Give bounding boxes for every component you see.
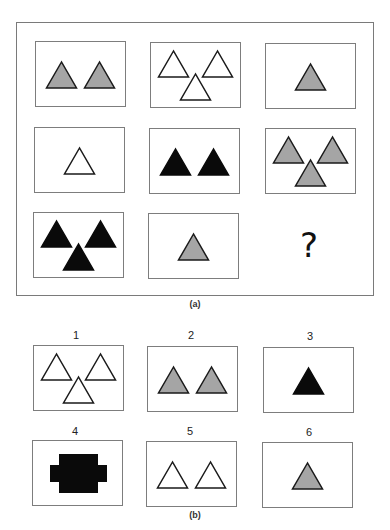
- option-2[interactable]: [147, 346, 238, 412]
- matrix-cell-1-2: [150, 42, 241, 108]
- option-6[interactable]: [262, 442, 353, 508]
- white-triangle-icon: [158, 462, 188, 488]
- white-triangle-icon: [203, 51, 233, 77]
- missing-cell-question-mark: ?: [300, 228, 318, 262]
- matrix-cell-1-1: [35, 41, 126, 107]
- matrix-cell-2-3: [265, 128, 356, 194]
- white-triangle-icon: [64, 377, 94, 403]
- matrix-cell-2-2: [149, 128, 240, 194]
- matrix-cell-3-2: [148, 213, 239, 279]
- option-label-6: 6: [306, 426, 312, 438]
- grey-triangle-icon: [296, 64, 326, 90]
- grey-triangle-icon: [293, 463, 323, 489]
- option-label-3: 3: [307, 330, 313, 342]
- grey-triangle-icon: [159, 367, 189, 393]
- options-caption: (b): [189, 510, 201, 520]
- option-5[interactable]: [146, 441, 237, 507]
- grey-triangle-icon: [274, 137, 304, 163]
- grey-triangle-icon: [318, 137, 348, 163]
- blob-shape-icon: [50, 454, 107, 493]
- black-triangle-icon: [294, 368, 324, 394]
- grey-triangle-icon: [47, 62, 77, 88]
- option-3[interactable]: [263, 347, 354, 413]
- option-4[interactable]: [32, 440, 123, 506]
- option-1[interactable]: [33, 345, 124, 411]
- option-label-4: 4: [72, 425, 78, 437]
- grey-triangle-icon: [179, 234, 209, 260]
- white-triangle-icon: [196, 462, 226, 488]
- black-triangle-icon: [86, 221, 116, 247]
- matrix-cell-2-1: [34, 127, 125, 193]
- grey-triangle-icon: [296, 160, 326, 186]
- black-triangle-icon: [42, 221, 72, 247]
- matrix-cell-1-3: [265, 43, 356, 109]
- black-triangle-icon: [64, 244, 94, 270]
- white-triangle-icon: [159, 51, 189, 77]
- black-triangle-icon: [161, 149, 191, 175]
- option-label-1: 1: [73, 329, 79, 341]
- option-label-2: 2: [188, 329, 194, 341]
- matrix-caption: (a): [190, 299, 201, 309]
- white-triangle-icon: [42, 354, 72, 380]
- matrix-cell-3-1: [33, 212, 124, 278]
- option-label-5: 5: [187, 425, 193, 437]
- grey-triangle-icon: [197, 367, 227, 393]
- white-triangle-icon: [86, 354, 116, 380]
- white-triangle-icon: [181, 74, 211, 100]
- black-triangle-icon: [199, 149, 229, 175]
- grey-triangle-icon: [85, 62, 115, 88]
- white-triangle-icon: [65, 148, 95, 174]
